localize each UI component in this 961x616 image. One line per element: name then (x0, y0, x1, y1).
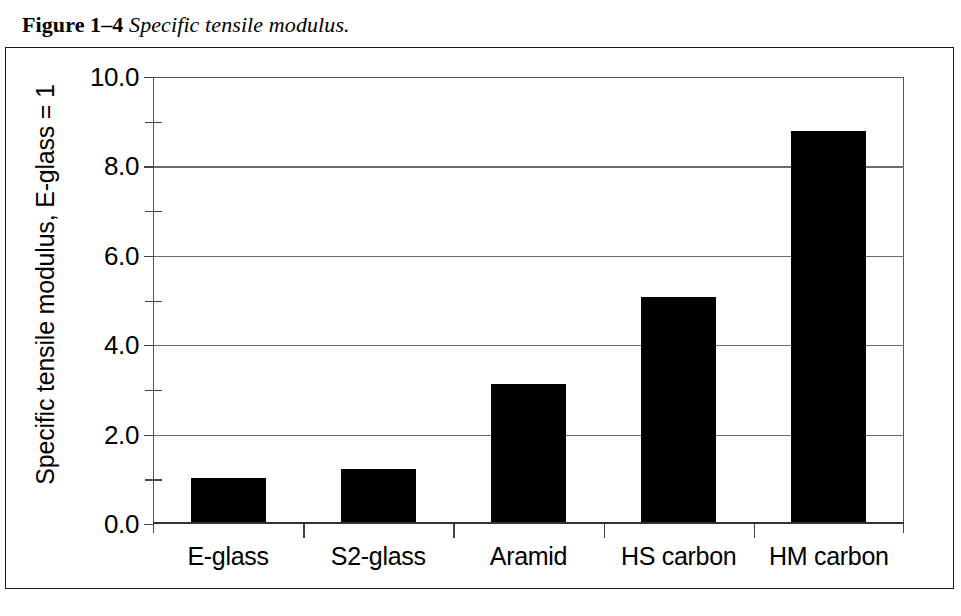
x-axis-label: E-glass (187, 542, 268, 571)
x-tick (604, 524, 605, 538)
y-tick-major (144, 256, 154, 257)
x-tick (903, 524, 904, 533)
plot-frame-top (153, 77, 904, 78)
y-tick-minor (145, 122, 162, 123)
figure-number: Figure 1–4 (22, 12, 123, 37)
x-axis-label: S2-glass (331, 542, 426, 571)
bar (191, 478, 266, 523)
y-tick-minor (145, 211, 162, 212)
y-tick-label: 10.0 (90, 62, 139, 93)
x-axis-label: HM carbon (769, 542, 889, 571)
figure-page: Figure 1–4 Specific tensile modulus. Spe… (0, 0, 961, 616)
y-tick-label: 2.0 (104, 419, 139, 450)
y-tick-major (144, 435, 154, 436)
y-tick-label: 0.0 (104, 509, 139, 540)
figure-caption: Figure 1–4 Specific tensile modulus. (22, 12, 350, 38)
x-axis-label: Aramid (490, 542, 567, 571)
bar-chart-plot-area: 0.02.04.06.08.010.0 E-glassS2-glassArami… (153, 77, 904, 524)
y-tick-minor (145, 479, 162, 480)
y-tick-label: 4.0 (104, 330, 139, 361)
x-tick (754, 524, 755, 538)
y-tick-major (144, 345, 154, 346)
y-tick-minor (145, 390, 162, 391)
bar (341, 469, 416, 523)
bar (641, 297, 716, 523)
x-tick (303, 524, 304, 538)
y-axis-title: Specific tensile modulus, E-glass = 1 (31, 50, 60, 520)
x-tick (453, 524, 454, 538)
y-tick-minor (145, 301, 162, 302)
figure-title: Specific tensile modulus. (129, 12, 350, 37)
y-tick-label: 8.0 (104, 151, 139, 182)
bar (491, 384, 566, 523)
x-axis-line (153, 522, 904, 524)
y-tick-major (144, 166, 154, 167)
plot-frame-right (903, 77, 904, 524)
x-tick (153, 524, 154, 533)
y-tick-major (144, 77, 154, 78)
figure-border-box: Specific tensile modulus, E-glass = 1 0.… (5, 47, 954, 589)
x-axis-label: HS carbon (621, 542, 736, 571)
bar (791, 131, 866, 522)
y-tick-label: 6.0 (104, 240, 139, 271)
